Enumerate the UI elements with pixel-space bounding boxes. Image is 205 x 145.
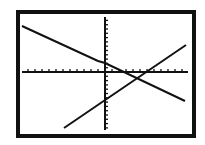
increasing-line (64, 45, 186, 128)
graph-plot (0, 0, 205, 145)
